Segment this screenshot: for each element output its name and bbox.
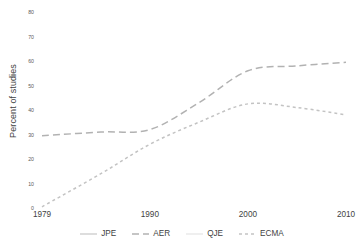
legend-item-ecma[interactable]: ECMA [239,227,284,241]
legend-item-aer[interactable]: AER [132,227,186,241]
legend-swatch-aer-icon [132,230,149,238]
legend-swatch-ecma-icon [239,230,256,238]
y-tick-label: 80 [16,9,34,15]
y-tick-label: 10 [16,181,34,187]
y-axis-tick-labels: 01020304050607080 [12,8,34,208]
legend-label: JPE [101,228,116,240]
legend-item-qje[interactable]: QJE [186,227,239,241]
legend-swatch-qje-icon [186,230,203,238]
y-tick-label: 70 [16,34,34,40]
x-tick-label: 2000 [223,209,273,221]
legend-label: AER [153,228,170,240]
x-tick-label: 2010 [321,209,364,221]
legend-label: ECMA [260,228,284,240]
chart-container: Percent of studies 01020304050607080 197… [0,0,364,251]
legend-label: QJE [207,228,223,240]
y-tick-label: 50 [16,83,34,89]
plot-area [38,8,356,208]
x-tick-label: 1990 [125,209,175,221]
legend-item-jpe[interactable]: JPE [80,227,132,241]
series-line-ecma [42,103,346,207]
y-tick-label: 40 [16,107,34,113]
series-line-aer [42,62,346,136]
y-tick-label: 20 [16,156,34,162]
y-tick-label: 60 [16,58,34,64]
x-axis-tick-labels: 1979199020002010 [38,209,356,223]
x-tick-label: 1979 [17,209,67,221]
y-tick-label: 30 [16,132,34,138]
series-lines [38,8,356,208]
legend-swatch-jpe-icon [80,230,97,238]
chart-legend: JPEAERQJEECMA [0,226,364,242]
